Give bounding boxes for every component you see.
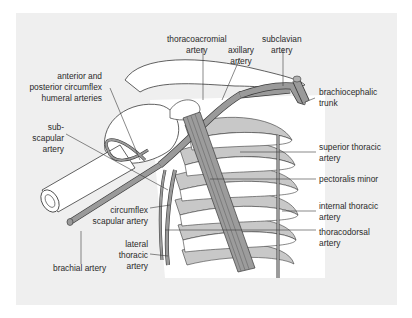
label-pectoralis-minor: pectoralis minor bbox=[319, 174, 378, 185]
label-internal-thoracic-artery: internal thoracic artery bbox=[319, 201, 378, 223]
label-subscapular-artery: sub- scapular artery bbox=[24, 122, 64, 155]
label-thoracoacromial-artery: thoracoacromial artery bbox=[167, 34, 227, 56]
label-lateral-thoracic-artery: lateral thoracic artery bbox=[100, 239, 148, 272]
label-axillary-artery: axillary artery bbox=[228, 45, 254, 67]
label-circumflex-scapular-artery: circumflex scapular artery bbox=[80, 205, 148, 227]
label-subclavian-artery: subclavian artery bbox=[262, 34, 302, 56]
label-superior-thoracic-artery: superior thoracic artery bbox=[319, 142, 381, 164]
label-brachiocephalic-trunk: brachiocephalic trunk bbox=[319, 87, 377, 109]
label-circumflex-humeral-arteries: anterior and posterior circumflex humera… bbox=[24, 71, 102, 104]
label-thoracodorsal-artery: thoracodorsal artery bbox=[319, 227, 370, 249]
label-brachial-artery: brachial artery bbox=[53, 263, 106, 274]
